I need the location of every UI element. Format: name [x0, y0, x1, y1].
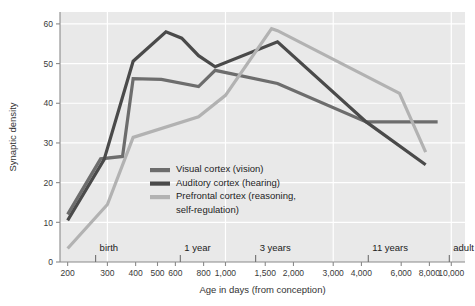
- legend-label: Visual cortex (vision): [176, 163, 263, 174]
- x-tick-label: 3,000: [323, 268, 345, 278]
- y-tick-label: 20: [44, 178, 54, 188]
- x-tick-label: 600: [168, 268, 182, 278]
- y-tick-label: 10: [44, 218, 54, 228]
- chart-canvas: 01020304050602003004005006008001,0001,50…: [0, 0, 475, 306]
- milestone-label: birth: [100, 242, 118, 253]
- x-tick-label: 500: [150, 268, 164, 278]
- y-tick-label: 60: [44, 19, 54, 29]
- milestone-label: 3 years: [260, 242, 291, 253]
- x-tick-label: 10,000: [438, 268, 464, 278]
- y-tick-label: 30: [44, 138, 54, 148]
- milestone-label: 11 years: [372, 242, 408, 253]
- legend-label: self-regulation): [176, 204, 239, 215]
- x-axis-title: Age in days (from conception): [199, 284, 325, 295]
- y-tick-label: 40: [44, 98, 54, 108]
- legend-label: Auditory cortex (hearing): [176, 177, 280, 188]
- x-tick-label: 4,000: [351, 268, 373, 278]
- synaptic-density-chart: 01020304050602003004005006008001,0001,50…: [0, 0, 475, 306]
- x-tick-label: 8,000: [419, 268, 441, 278]
- y-tick-label: 50: [44, 59, 54, 69]
- x-tick-label: 400: [129, 268, 143, 278]
- x-tick-label: 300: [100, 268, 114, 278]
- legend-label: Prefrontal cortex (reasoning,: [176, 190, 296, 201]
- x-tick-label: 1,000: [215, 268, 237, 278]
- milestone-label: adult: [453, 242, 474, 253]
- x-tick-label: 1,500: [255, 268, 277, 278]
- y-tick-label: 0: [48, 257, 53, 267]
- x-tick-label: 6,000: [391, 268, 413, 278]
- y-axis-title: Synaptic density: [7, 102, 18, 171]
- x-tick-label: 800: [197, 268, 211, 278]
- x-tick-label: 2,000: [283, 268, 305, 278]
- milestone-label: 1 year: [184, 242, 210, 253]
- x-tick-label: 200: [61, 268, 75, 278]
